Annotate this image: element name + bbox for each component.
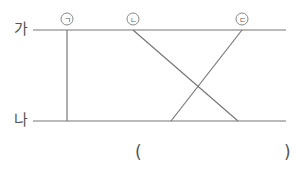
segment-b [133,30,238,121]
segment-c [171,30,242,121]
answer-open-paren: ( [135,144,142,161]
marker-a: ㄱ [61,13,73,25]
answer-close-paren: ) [284,144,291,161]
marker-a-label: ㄱ [64,16,71,25]
marker-b: ㄴ [127,13,139,25]
marker-c: ㄷ [236,13,248,25]
answer-blank[interactable] [146,144,284,162]
marker-c-label: ㄷ [239,16,246,25]
marker-b-label: ㄴ [130,16,137,25]
